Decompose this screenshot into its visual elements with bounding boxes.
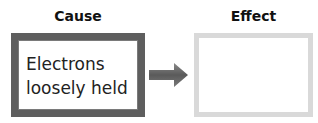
right-arrow-icon xyxy=(149,61,189,89)
cause-heading: Cause xyxy=(11,8,145,24)
cause-text-line1: Electrons xyxy=(26,52,128,76)
cause-text: Electrons loosely held xyxy=(26,52,128,100)
cause-text-line2: loosely held xyxy=(26,76,128,100)
cause-box: Electrons loosely held xyxy=(11,33,145,117)
effect-heading: Effect xyxy=(194,8,313,24)
effect-box xyxy=(194,33,313,117)
